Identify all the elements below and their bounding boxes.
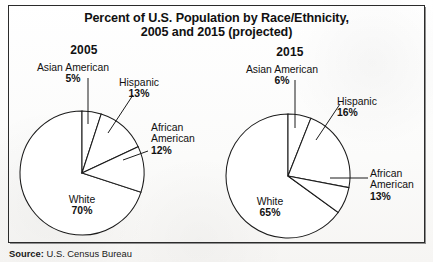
pie-label-white-2015-name: White xyxy=(257,196,284,207)
pie-label-asian-american-2015-value: 6% xyxy=(230,75,334,86)
source-label: Source: xyxy=(9,248,44,259)
chart-screenshot: Percent of U.S. Population by Race/Ethni… xyxy=(0,0,433,262)
pie-label-hispanic-2005-name: Hispanic xyxy=(119,77,159,88)
pie-label-white-2015: White 65% xyxy=(243,196,297,219)
pie-label-hispanic-2015: Hispanic 16% xyxy=(337,96,377,119)
pie-label-asian-american-2015-name: Asian American xyxy=(246,64,318,75)
pie-label-white-2005-name: White xyxy=(69,194,96,205)
pie-label-white-2005: White 70% xyxy=(55,194,109,217)
pie-label-african-american-2015-value: 13% xyxy=(370,191,414,202)
pie-label-african-american-2015-name-line1: African xyxy=(370,168,402,179)
pie-label-white-2005-value: 70% xyxy=(55,205,109,216)
pie-label-african-american-2005-value: 12% xyxy=(151,145,195,156)
pie-charts-graphics xyxy=(0,0,433,262)
pie-label-hispanic-2005-value: 13% xyxy=(108,88,170,99)
pie-label-asian-american-2005-name: Asian American xyxy=(37,62,109,73)
pie-label-hispanic-2015-value: 16% xyxy=(337,107,377,118)
pie-label-white-2015-value: 65% xyxy=(243,207,297,218)
pie-label-hispanic-2015-name: Hispanic xyxy=(337,96,377,107)
pie-label-african-american-2015: African American 13% xyxy=(370,168,414,202)
pie-label-african-american-2005-name-line2: American xyxy=(151,133,195,144)
pie-label-african-american-2005: African American 12% xyxy=(151,122,195,156)
source-note: Source: U.S. Census Bureau xyxy=(9,248,132,259)
pie-label-african-american-2005-name-line1: African xyxy=(151,122,183,133)
pie-label-asian-american-2015: Asian American 6% xyxy=(230,64,334,87)
pie-label-hispanic-2005: Hispanic 13% xyxy=(108,77,170,100)
source-text: U.S. Census Bureau xyxy=(47,248,132,259)
pie-label-african-american-2015-name-line2: American xyxy=(370,179,414,190)
